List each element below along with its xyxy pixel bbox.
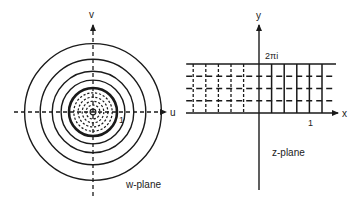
w-unit-marker-label: 1 [119, 115, 124, 125]
y-axis-label: y [256, 10, 261, 21]
conformal-map-diagram: u v 1 w-plane x y 2πi 1 z-plane [0, 0, 363, 202]
w-plane-label: w-plane [125, 179, 161, 190]
w-plane-diagram: u v 1 w-plane [14, 9, 176, 196]
u-axis-label: u [170, 107, 176, 118]
z-plane-label: z-plane [272, 147, 305, 158]
two-pi-i-label: 2πi [265, 51, 278, 61]
z-plane-diagram: x y 2πi 1 z-plane [186, 10, 347, 190]
z-unit-marker-label: 1 [308, 118, 313, 128]
z-plane-strip [186, 64, 336, 113]
v-axis-label: v [89, 9, 94, 20]
x-axis-label: x [342, 108, 347, 119]
